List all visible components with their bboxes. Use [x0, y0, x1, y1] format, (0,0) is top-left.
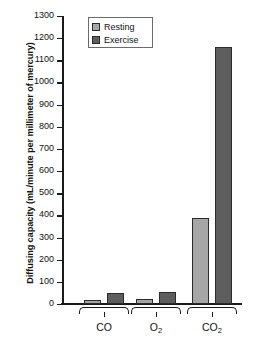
y-tick-label-1100: 1100 — [24, 54, 54, 65]
y-tick-1300: 1300 — [57, 16, 62, 17]
y-tick-label-700: 700 — [24, 143, 54, 154]
legend-label-resting: Resting — [104, 22, 135, 32]
brace-stem — [156, 312, 157, 317]
y-tick-1200: 1200 — [57, 38, 62, 39]
y-tick-300: 300 — [57, 238, 62, 239]
x-axis-label-o2: O2 — [126, 321, 186, 333]
bar-o2-exercise — [159, 292, 176, 304]
y-tick-label-500: 500 — [24, 187, 54, 198]
y-tick-0: 0 — [57, 304, 62, 305]
bar-co-exercise — [107, 293, 124, 304]
brace-left — [131, 307, 156, 314]
y-tick-1100: 1100 — [57, 60, 62, 61]
legend-label-exercise: Exercise — [104, 35, 139, 45]
brace-right — [156, 307, 181, 314]
group-brace-o2 — [131, 307, 181, 314]
brace-stem — [212, 312, 213, 317]
brace-left — [187, 307, 212, 314]
bar-co2-exercise — [215, 47, 232, 304]
plot-area: 0100200300400500600700800900100011001200… — [62, 16, 242, 304]
y-tick-100: 100 — [57, 282, 62, 283]
y-tick-label-1000: 1000 — [24, 76, 54, 87]
y-tick-900: 900 — [57, 105, 62, 106]
y-axis-line — [62, 16, 64, 304]
y-tick-label-1200: 1200 — [24, 32, 54, 43]
brace-left — [79, 307, 104, 314]
y-tick-800: 800 — [57, 127, 62, 128]
legend: Resting Exercise — [88, 17, 153, 48]
brace-right — [104, 307, 129, 314]
y-tick-label-0: 0 — [24, 298, 54, 309]
y-tick-label-600: 600 — [24, 165, 54, 176]
y-tick-label-400: 400 — [24, 209, 54, 220]
x-axis-label-co2: CO2 — [182, 321, 242, 333]
legend-item-resting: Resting — [92, 20, 149, 33]
y-tick-600: 600 — [57, 171, 62, 172]
bar-co-resting — [84, 300, 101, 304]
y-tick-label-300: 300 — [24, 232, 54, 243]
y-tick-label-100: 100 — [24, 276, 54, 287]
y-tick-200: 200 — [57, 260, 62, 261]
bar-chart: Diffusing capacity (mL/minute per millim… — [0, 0, 264, 343]
brace-right — [212, 307, 237, 314]
bar-co2-resting — [192, 218, 209, 304]
y-tick-label-800: 800 — [24, 121, 54, 132]
group-brace-co — [79, 307, 129, 314]
y-tick-label-200: 200 — [24, 254, 54, 265]
y-tick-label-900: 900 — [24, 99, 54, 110]
bar-o2-resting — [136, 299, 153, 304]
legend-item-exercise: Exercise — [92, 33, 149, 46]
x-axis-label-co: CO — [74, 321, 134, 333]
y-tick-1000: 1000 — [57, 82, 62, 83]
group-brace-co2 — [187, 307, 237, 314]
legend-swatch-exercise-icon — [92, 36, 100, 44]
y-tick-500: 500 — [57, 193, 62, 194]
legend-swatch-resting-icon — [92, 23, 100, 31]
brace-stem — [104, 312, 105, 317]
y-tick-400: 400 — [57, 215, 62, 216]
y-tick-700: 700 — [57, 149, 62, 150]
y-tick-label-1300: 1300 — [24, 10, 54, 21]
